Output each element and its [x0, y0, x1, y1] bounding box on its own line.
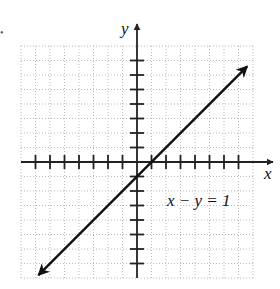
- y-axis-label: y: [119, 19, 129, 38]
- equation-label: x − y = 1: [166, 191, 231, 210]
- list-marker: •: [0, 27, 4, 38]
- axes: [21, 24, 273, 278]
- line-x-minus-y-equals-1: [38, 66, 247, 275]
- graph-plot: y x x − y = 1 •: [0, 0, 280, 289]
- x-axis-label: x: [263, 164, 272, 183]
